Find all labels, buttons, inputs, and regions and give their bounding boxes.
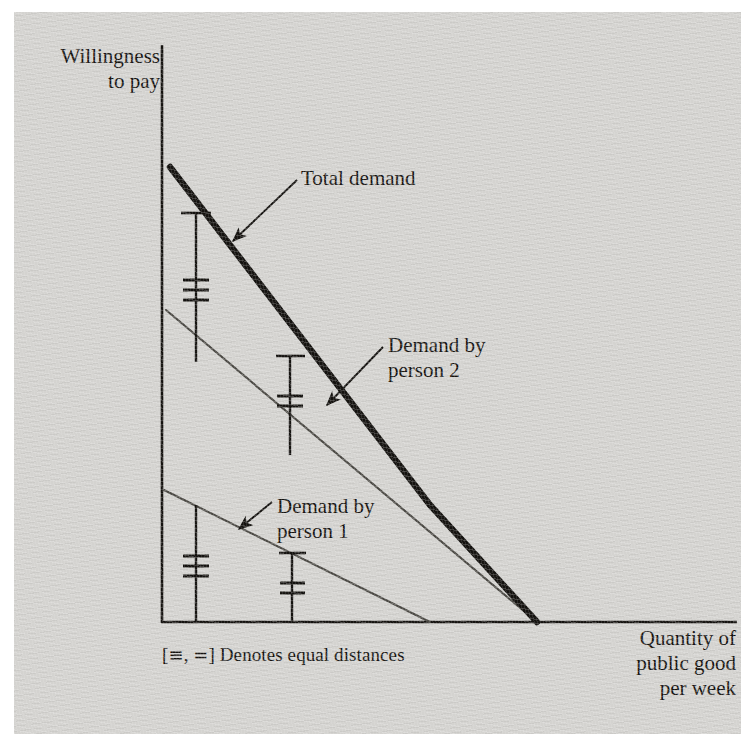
page-margin-top	[0, 0, 753, 12]
page-margin-bottom	[0, 734, 753, 752]
distance-marker-middle-double	[276, 355, 305, 455]
demand-curve-total	[170, 167, 537, 622]
total-demand-label: Total demand	[301, 166, 416, 191]
legend-text: ] Denotes equal distances	[209, 644, 405, 665]
person2-arrow	[327, 347, 383, 405]
triple-bar-glyph: ≡	[168, 644, 183, 665]
total-demand-arrow	[233, 180, 297, 241]
page-margin-left	[0, 0, 14, 752]
double-bar-glyph: =	[193, 644, 208, 665]
page-margin-right	[741, 0, 753, 752]
person-2-demand-label: Demand by person 2	[388, 333, 485, 383]
distance-marker-lower-right-double	[279, 552, 306, 622]
x-axis-label: Quantity of public good per week	[596, 626, 736, 700]
legend-separator: ,	[184, 644, 194, 665]
distance-marker-upper-triple	[181, 212, 211, 362]
equal-distance-legend: [≡, =] Denotes equal distances	[162, 644, 405, 666]
demand-curves	[164, 167, 537, 622]
person1-arrow	[239, 502, 272, 529]
figure-container: Willingness to pay Quantity of public go…	[0, 0, 753, 752]
distance-marker-lower-left-triple	[183, 505, 209, 622]
person-1-demand-label: Demand by person 1	[277, 494, 374, 544]
y-axis-label: Willingness to pay	[48, 44, 160, 94]
